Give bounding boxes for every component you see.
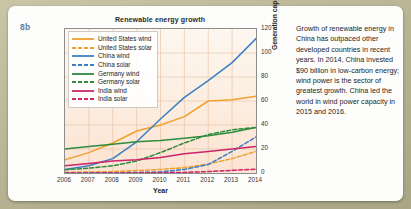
- y-axis-tick-label: 60: [261, 97, 268, 103]
- y-axis-tick-label: 80: [261, 73, 268, 79]
- x-axis-tick-label: 2014: [243, 176, 267, 183]
- legend-color-swatch: [72, 61, 94, 69]
- legend-color-swatch: [72, 44, 94, 52]
- legend-label: China wind: [98, 52, 130, 60]
- legend-color-swatch: [72, 70, 94, 78]
- x-axis-label: Year: [64, 187, 257, 194]
- x-axis-tick-label: 2010: [148, 176, 172, 183]
- legend-item[interactable]: China wind: [72, 52, 152, 61]
- x-axis-tick-label: 2011: [171, 176, 195, 183]
- x-axis-tick-label: 2006: [52, 176, 76, 183]
- legend-color-swatch: [72, 87, 94, 95]
- legend-item[interactable]: India solar: [72, 95, 152, 104]
- legend-item[interactable]: China solar: [72, 61, 152, 70]
- x-axis-tick-label: 2008: [100, 176, 124, 183]
- legend-item[interactable]: United States solar: [72, 44, 152, 53]
- legend-item[interactable]: Germany wind: [72, 69, 152, 78]
- y-axis-tick-label: 0: [261, 169, 265, 175]
- legend-label: China solar: [98, 61, 130, 69]
- y-axis-tick-label: 100: [261, 49, 272, 55]
- y-axis-tick-label: 40: [261, 121, 268, 127]
- x-axis-tick-label: 2012: [195, 176, 219, 183]
- legend-label: United States wind: [98, 35, 151, 43]
- x-axis-tick-label: 2009: [124, 176, 148, 183]
- figure-card: 8b Renewable energy growth 0204060801001…: [8, 6, 403, 201]
- figure-number-label: 8b: [20, 22, 30, 32]
- chart-container: Renewable energy growth 020406080100120 …: [35, 14, 285, 194]
- legend-label: Germany wind: [98, 70, 139, 78]
- legend-label: India solar: [98, 95, 128, 103]
- chart-legend: United States windUnited States solarChi…: [68, 31, 158, 108]
- y-axis-tick-label: 120: [261, 25, 272, 31]
- legend-color-swatch: [72, 52, 94, 60]
- legend-label: United States solar: [98, 44, 152, 52]
- x-axis-tick-label: 2013: [219, 176, 243, 183]
- legend-label: India wind: [98, 87, 127, 95]
- legend-label: Germany solar: [98, 78, 140, 86]
- legend-item[interactable]: United States wind: [72, 35, 152, 44]
- y-axis-label: Generation capacity (GW): [271, 0, 278, 50]
- x-axis-tick-label: 2007: [76, 176, 100, 183]
- y-axis-tick-label: 20: [261, 145, 268, 151]
- figure-page: 8b Renewable energy growth 0204060801001…: [0, 0, 411, 209]
- legend-color-swatch: [72, 95, 94, 103]
- legend-color-swatch: [72, 78, 94, 86]
- chart-title: Renewable energy growth: [35, 16, 285, 23]
- legend-item[interactable]: India wind: [72, 87, 152, 96]
- legend-color-swatch: [72, 35, 94, 43]
- figure-caption: Growth of renewable energy in China has …: [296, 24, 400, 118]
- legend-item[interactable]: Germany solar: [72, 78, 152, 87]
